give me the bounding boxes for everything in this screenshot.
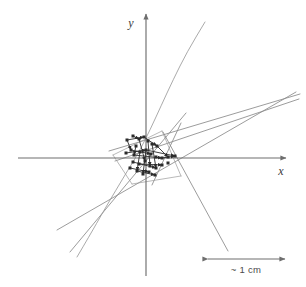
cluster-point-27: [154, 174, 157, 177]
cluster-point-19: [138, 163, 141, 166]
cluster-point-7: [135, 145, 138, 148]
cluster-point-29: [167, 162, 170, 165]
cluster-point-24: [136, 170, 139, 173]
cluster-point-8: [130, 149, 133, 152]
cluster-point-17: [174, 155, 177, 158]
cluster-point-25: [142, 173, 145, 176]
cluster-point-23: [161, 164, 164, 167]
cluster-point-9: [125, 152, 128, 155]
cluster-point-6: [156, 145, 159, 148]
scale-bar-label: ~ 1 cm: [231, 264, 262, 275]
cluster-point-14: [155, 156, 158, 159]
cluster-segment-16: [157, 146, 168, 157]
cluster-point-4: [147, 140, 150, 143]
cluster-point-12: [145, 149, 148, 152]
cluster-point-18: [132, 161, 135, 164]
y-axis-label: y: [127, 16, 134, 30]
cluster-point-13: [150, 153, 153, 156]
x-axis-label: x: [277, 164, 284, 178]
curve-1: [77, 22, 205, 257]
scale-bar-group: ~ 1 cm: [208, 259, 285, 275]
cluster-point-0: [126, 139, 129, 142]
cluster-point-21: [149, 165, 152, 168]
cluster-point-22: [155, 167, 158, 170]
cluster-point-15: [161, 157, 164, 160]
line-3: [57, 92, 296, 230]
cluster-point-5: [151, 143, 154, 146]
curves-group: [77, 22, 205, 257]
cluster-point-2: [138, 138, 141, 141]
cluster-point-20: [144, 160, 147, 163]
cluster-point-11: [139, 151, 142, 154]
line-1: [109, 94, 300, 151]
cluster-point-3: [143, 136, 146, 139]
cluster-point-16: [167, 156, 170, 159]
cluster-point-28: [129, 167, 132, 170]
coordinate-plane-figure: y x ~ 1 cm: [0, 0, 306, 287]
boundary-edge-2: [132, 176, 181, 184]
line-4: [70, 113, 186, 252]
cluster-point-1: [132, 135, 135, 138]
cluster-point-26: [148, 171, 151, 174]
cluster-point-10: [133, 154, 136, 157]
figure-container: y x ~ 1 cm: [0, 0, 306, 287]
